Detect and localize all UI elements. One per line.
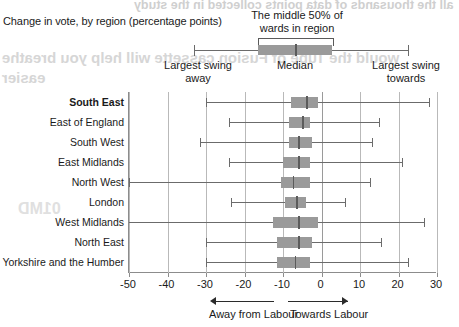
legend-label-largest-swing-away: Largest swing away <box>150 59 246 85</box>
legend-median-line <box>295 44 297 56</box>
boxplot-row[interactable]: Yorkshire and the Humber <box>129 253 437 273</box>
axis-tick-label--40: -40 <box>147 278 187 290</box>
median-line <box>298 236 300 249</box>
iqr-box <box>281 177 310 188</box>
whisker-cap-max <box>379 118 380 127</box>
boxplot-row[interactable]: South West <box>129 133 437 153</box>
axis-tick--30 <box>206 273 207 277</box>
towards-arrow-line <box>288 301 348 302</box>
whisker-lower <box>231 202 285 203</box>
whisker-cap-min <box>206 238 207 247</box>
axis-tick--10 <box>283 273 284 277</box>
whisker-upper <box>310 262 408 263</box>
whisker-cap-min <box>229 118 230 127</box>
whisker-lower <box>229 162 283 163</box>
whisker-lower <box>229 122 289 123</box>
whisker-upper <box>318 222 424 223</box>
axis-tick-label-0: 0 <box>301 278 341 290</box>
whisker-lower <box>206 262 277 263</box>
whisker-cap-max <box>408 258 409 267</box>
whisker-cap-max <box>372 138 373 147</box>
row-label-east-midlands: East Midlands <box>58 156 124 168</box>
iqr-box <box>289 117 310 128</box>
legend-box-caption-line2: wards in region <box>237 22 357 35</box>
legend-label-median: Median <box>257 59 333 72</box>
whisker-cap-max <box>402 158 403 167</box>
whisker-upper <box>310 122 379 123</box>
whisker-cap-max <box>381 238 382 247</box>
boxplot-row[interactable]: North West <box>129 173 437 193</box>
legend-label-away-line2: away <box>150 72 246 85</box>
axis-tick-label--50: -50 <box>108 278 148 290</box>
axis-tick-label-20: 20 <box>378 278 418 290</box>
axis-tick-0 <box>322 273 323 277</box>
footer-label-towards-labour: Towards Labour <box>290 308 368 320</box>
median-line <box>302 116 304 129</box>
whisker-cap-max <box>424 218 425 227</box>
whisker-cap-min <box>200 138 201 147</box>
whisker-lower <box>206 102 291 103</box>
row-label-east-of-england: East of England <box>50 116 124 128</box>
whisker-upper <box>310 162 402 163</box>
footer-label-away-from-labour: Away from Labour <box>209 308 298 320</box>
whisker-upper <box>310 182 370 183</box>
iqr-box <box>291 97 318 108</box>
whisker-lower <box>129 182 281 183</box>
axis-tick--50 <box>129 273 130 277</box>
row-label-north-east: North East <box>74 236 124 248</box>
median-line <box>298 216 300 229</box>
median-line <box>296 196 298 209</box>
row-label-west-midlands: West Midlands <box>55 216 124 228</box>
towards-arrow-head-icon <box>342 297 348 305</box>
legend-whisker-cap-left <box>194 45 195 56</box>
whisker-upper <box>318 102 430 103</box>
whisker-lower <box>129 222 273 223</box>
legend-label-towards-line1: Largest swing <box>356 59 456 72</box>
row-label-london: London <box>89 196 124 208</box>
row-label-south-east: South East <box>69 96 124 108</box>
boxplot-row[interactable]: London <box>129 193 437 213</box>
legend-label-largest-swing-towards: Largest swing towards <box>356 59 456 85</box>
whisker-lower <box>200 142 289 143</box>
boxplot-row[interactable]: North East <box>129 233 437 253</box>
whisker-cap-min <box>129 178 130 187</box>
away-arrow-line <box>214 301 274 302</box>
whisker-cap-min <box>206 258 207 267</box>
axis-tick-label--10: -10 <box>262 278 302 290</box>
axis-tick-label--30: -30 <box>185 278 225 290</box>
chart-title: Change in vote, by region (percentage po… <box>3 15 222 27</box>
legend-label-towards-line2: towards <box>356 72 456 85</box>
boxplot-row[interactable]: East Midlands <box>129 153 437 173</box>
plot-area: South EastEast of EnglandSouth WestEast … <box>128 92 436 273</box>
median-line <box>298 156 300 169</box>
whisker-cap-min <box>229 158 230 167</box>
row-label-yorkshire-and-the-humber: Yorkshire and the Humber <box>2 256 124 268</box>
axis-tick-30 <box>437 273 438 277</box>
page-bleed-text-4: 01MD <box>18 200 61 218</box>
whisker-lower <box>206 242 277 243</box>
row-label-south-west: South West <box>70 136 124 148</box>
axis-tick-label-10: 10 <box>339 278 379 290</box>
whisker-cap-max <box>370 178 371 187</box>
axis-tick--20 <box>245 273 246 277</box>
axis-tick-label--20: -20 <box>224 278 264 290</box>
median-line <box>306 96 308 109</box>
legend-box-caption: The middle 50% of wards in region <box>237 9 357 35</box>
axis-tick--40 <box>168 273 169 277</box>
median-line <box>298 136 300 149</box>
boxplot-row[interactable]: East of England <box>129 113 437 133</box>
whisker-upper <box>312 142 372 143</box>
median-line <box>293 176 295 189</box>
legend-box-caption-line1: The middle 50% of <box>237 9 357 22</box>
boxplot-row[interactable]: South East <box>129 93 437 113</box>
whisker-upper <box>306 202 345 203</box>
page-bleed-text-3: easier <box>2 69 45 86</box>
whisker-cap-max <box>345 198 346 207</box>
iqr-box <box>273 217 317 228</box>
legend-label-away-line1: Largest swing <box>150 59 246 72</box>
whisker-upper <box>312 242 381 243</box>
axis-tick-10 <box>360 273 361 277</box>
iqr-box <box>283 157 310 168</box>
boxplot-row[interactable]: West Midlands <box>129 213 437 233</box>
iqr-box <box>277 237 312 248</box>
